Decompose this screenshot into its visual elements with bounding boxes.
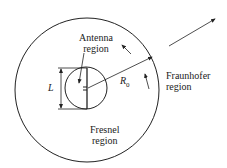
- length-label: L: [48, 82, 54, 93]
- boundary-arrow-1: [122, 45, 131, 54]
- fresnel-region-label: Fresnel region: [90, 124, 119, 146]
- boundary-arrow-2: [145, 74, 149, 89]
- fraunhofer-region-label: Fraunhofer region: [166, 70, 210, 92]
- antenna-region-circle: [65, 67, 107, 109]
- antenna-region-label: Antenna region: [76, 32, 116, 54]
- radius-label: R0: [120, 75, 130, 91]
- far-field-arrow: [169, 19, 215, 46]
